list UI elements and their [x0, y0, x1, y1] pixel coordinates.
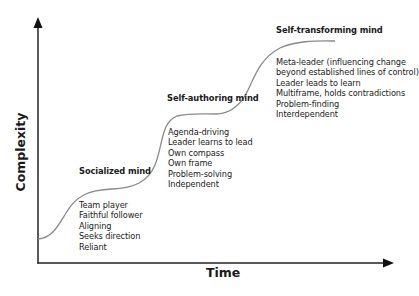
trait-item: Problem-solving	[168, 169, 253, 179]
stage-title-self-authoring: Self-authoring mind	[167, 93, 259, 103]
trait-item: Independent	[168, 179, 253, 189]
trait-item: Own frame	[168, 158, 253, 168]
trait-item: Interdependent	[276, 109, 419, 119]
trait-item: Problem-finding	[276, 99, 419, 109]
x-axis-label: Time	[206, 265, 240, 280]
trait-item: Seeks direction	[79, 231, 142, 241]
trait-item: Aligning	[79, 221, 142, 231]
y-axis-label: Complexity	[13, 113, 28, 192]
trait-item: Leader learns to lead	[168, 137, 253, 147]
trait-item: Team player	[79, 200, 142, 210]
trait-item: Meta-leader (influencing change	[276, 57, 419, 67]
stage-title-self-transforming: Self-transforming mind	[276, 25, 383, 35]
trait-item: Reliant	[79, 242, 142, 252]
x-axis-arrow-icon	[383, 259, 394, 268]
mental-complexity-diagram: Complexity Time Socialized mind Team pla…	[0, 0, 419, 296]
trait-item: Leader leads to learn	[276, 78, 419, 88]
trait-item: Multiframe, holds contradictions	[276, 88, 419, 98]
y-axis-arrow-icon	[34, 17, 43, 28]
trait-item: beyond established lines of control)	[276, 67, 419, 77]
stage-traits-self-authoring: Agenda-driving Leader learns to lead Own…	[168, 127, 253, 189]
trait-item: Faithful follower	[79, 210, 142, 220]
stage-traits-socialized: Team player Faithful follower Aligning S…	[79, 200, 142, 252]
trait-item: Own compass	[168, 148, 253, 158]
stage-traits-self-transforming: Meta-leader (influencing change beyond e…	[276, 57, 419, 119]
trait-item: Agenda-driving	[168, 127, 253, 137]
stage-title-socialized: Socialized mind	[79, 166, 151, 176]
